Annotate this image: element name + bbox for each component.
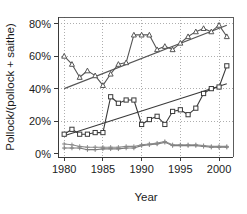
tick-marks	[54, 24, 219, 161]
chart-container: 0%20%40%60%80%19801985199019952000 Year …	[0, 0, 247, 214]
marker-upper-series-secondary-1992	[155, 141, 159, 145]
series-middle-series	[62, 64, 229, 137]
marker-middle-series-1991	[147, 117, 151, 121]
marker-upper-series-secondary-1997	[194, 143, 198, 147]
marker-middle-series-1986	[109, 95, 113, 99]
marker-middle-series-1995	[178, 108, 182, 112]
marker-upper-series-secondary-1980	[62, 142, 66, 146]
marker-middle-series-1996	[186, 113, 190, 117]
marker-upper-series-1998	[201, 26, 206, 31]
marker-upper-series-secondary-1984	[93, 145, 97, 149]
marker-upper-series-secondary-2001	[225, 144, 229, 148]
marker-upper-series-1988	[124, 60, 129, 65]
ytick-label-0: 0%	[35, 148, 51, 160]
marker-upper-series-1980	[62, 53, 67, 58]
marker-middle-series-1983	[85, 132, 89, 136]
pollock-saithe-line-chart: 0%20%40%60%80%19801985199019952000 Year …	[0, 0, 247, 214]
marker-upper-series-secondary-1981	[70, 143, 74, 147]
xtick-label-2000: 2000	[207, 163, 231, 175]
marker-middle-series-1980	[62, 132, 66, 136]
marker-middle-series-1984	[93, 130, 97, 134]
xtick-label-1980: 1980	[52, 163, 76, 175]
marker-upper-series-1991	[147, 32, 152, 37]
marker-upper-series-secondary-1995	[178, 143, 182, 147]
marker-middle-series-1994	[171, 109, 175, 113]
marker-middle-series-1992	[155, 114, 159, 118]
marker-upper-series-secondary-2000	[217, 144, 221, 148]
trend-lines	[64, 25, 227, 136]
marker-upper-series-1989	[131, 32, 136, 37]
marker-upper-series-secondary-1983	[85, 145, 89, 149]
marker-middle-series-1990	[140, 122, 144, 126]
plot-frame	[58, 17, 233, 157]
marker-middle-series-2000	[217, 85, 221, 89]
xtick-label-1985: 1985	[91, 163, 115, 175]
marker-upper-series-1983	[85, 68, 90, 73]
marker-middle-series-1993	[163, 122, 167, 126]
marker-middle-series-1982	[78, 132, 82, 136]
marker-upper-series-secondary-1998	[201, 143, 205, 147]
marker-middle-series-1998	[201, 91, 205, 95]
xtick-label-1990: 1990	[129, 163, 153, 175]
marker-upper-series-1984	[93, 73, 98, 78]
series-upper-series	[62, 23, 230, 88]
marker-upper-series-1993	[162, 44, 167, 49]
marker-middle-series-1981	[70, 127, 74, 131]
marker-upper-series-1996	[186, 34, 191, 39]
marker-upper-series-secondary-1991	[147, 142, 151, 146]
ytick-label-20: 20%	[29, 115, 51, 127]
ytick-label-80: 80%	[29, 18, 51, 30]
x-axis-title: Year	[134, 191, 157, 203]
y-axis-title: Pollock/(pollock + saithe)	[4, 23, 16, 151]
marker-lower-series-1980	[62, 146, 66, 150]
ytick-label-60: 60%	[29, 50, 51, 62]
marker-middle-series-1987	[116, 101, 120, 105]
ytick-label-40: 40%	[29, 83, 51, 95]
data-series	[62, 23, 230, 152]
marker-upper-series-secondary-1999	[209, 144, 213, 148]
gridlines	[58, 17, 233, 157]
marker-upper-series-1992	[155, 47, 160, 52]
xtick-label-1995: 1995	[168, 163, 192, 175]
series-path-middle-series	[64, 66, 227, 134]
axis-labels: 0%20%40%60%80%19801985199019952000	[29, 18, 231, 175]
marker-middle-series-2001	[225, 64, 229, 68]
marker-middle-series-1999	[209, 87, 213, 91]
marker-upper-series-secondary-1994	[170, 143, 174, 147]
marker-middle-series-1997	[194, 106, 198, 110]
marker-middle-series-1988	[124, 98, 128, 102]
marker-middle-series-1989	[132, 98, 136, 102]
marker-middle-series-1985	[101, 130, 105, 134]
marker-upper-series-1997	[193, 29, 198, 34]
marker-upper-series-1990	[139, 32, 144, 37]
marker-upper-series-1987	[116, 62, 121, 67]
marker-upper-series-secondary-1996	[186, 143, 190, 147]
